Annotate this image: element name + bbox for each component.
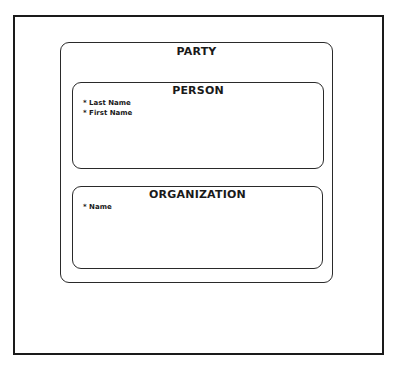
attribute-last-name: * Last Name bbox=[83, 98, 132, 108]
entity-title-party: PARTY bbox=[61, 45, 332, 58]
entity-title-organization: ORGANIZATION bbox=[73, 188, 322, 201]
attribute-name: * Name bbox=[83, 202, 112, 212]
attribute-first-name: * First Name bbox=[83, 108, 132, 118]
attribute-list: * Last Name * First Name bbox=[83, 98, 132, 118]
entity-person[interactable]: PERSON * Last Name * First Name bbox=[72, 82, 324, 169]
entity-title-person: PERSON bbox=[73, 84, 323, 97]
attribute-list: * Name bbox=[83, 202, 112, 212]
entity-organization[interactable]: ORGANIZATION * Name bbox=[72, 186, 323, 269]
